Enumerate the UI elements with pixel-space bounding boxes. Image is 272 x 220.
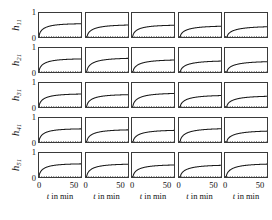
response-curve	[132, 130, 174, 142]
plot-panel-r1c3	[178, 47, 222, 73]
x-caption-units: in min	[142, 191, 166, 201]
panel-plot-area	[132, 13, 174, 37]
response-curve	[179, 26, 221, 37]
panel-plot-area	[86, 153, 128, 177]
panel-plot-area	[179, 13, 221, 37]
panel-plot-area	[132, 118, 174, 142]
plot-panel-r3c1	[85, 117, 129, 143]
plot-panel-r3c3	[178, 117, 222, 143]
plot-panel-r0c3	[178, 12, 222, 38]
panel-plot-area	[39, 118, 81, 142]
response-curve	[225, 27, 267, 37]
response-curve	[39, 24, 81, 37]
response-curve	[179, 129, 221, 142]
y-tick-1-row1: 1	[27, 43, 36, 52]
plot-panel-r3c2	[131, 117, 175, 143]
panel-plot-area	[39, 83, 81, 107]
panel-plot-area	[179, 48, 221, 72]
plot-panel-r4c3	[178, 152, 222, 178]
x-tick-0-col2: 0	[125, 181, 139, 190]
plot-panel-r4c2	[131, 152, 175, 178]
panel-plot-area	[225, 48, 267, 72]
panel-plot-area	[132, 48, 174, 72]
plot-panel-r1c1	[85, 47, 129, 73]
x-caption-units: in min	[189, 191, 213, 201]
plot-panel-r0c0	[38, 12, 82, 38]
y-tick-1-row2: 1	[27, 78, 36, 87]
panel-plot-area	[86, 83, 128, 107]
x-caption-units: in min	[96, 191, 120, 201]
panel-plot-area	[225, 153, 267, 177]
response-curve	[179, 96, 221, 107]
response-curve	[179, 61, 221, 72]
panel-plot-area	[179, 83, 221, 107]
plot-panel-r2c4	[224, 82, 268, 108]
response-curve	[86, 25, 128, 37]
response-curve	[86, 95, 128, 107]
row-label-text: h21	[11, 54, 23, 66]
x-tick-0-col3: 0	[172, 181, 186, 190]
x-tick-0-col1: 0	[79, 181, 93, 190]
step-response-matrix-figure: h11h21h31h41h510101010101050t in min050t…	[0, 0, 272, 220]
response-curve	[39, 164, 81, 177]
plot-panel-r4c1	[85, 152, 129, 178]
y-tick-1-row3: 1	[27, 113, 36, 122]
response-curve	[179, 165, 221, 177]
response-curve	[225, 131, 267, 142]
panel-plot-area	[179, 153, 221, 177]
response-curve	[39, 94, 81, 107]
plot-panel-r4c4	[224, 152, 268, 178]
plot-panel-r4c0	[38, 152, 82, 178]
response-curve	[225, 164, 267, 177]
y-tick-0-row0: 0	[27, 34, 36, 43]
panel-plot-area	[132, 83, 174, 107]
response-curve	[132, 165, 174, 177]
x-caption-units: in min	[49, 191, 73, 201]
y-tick-1-row4: 1	[27, 148, 36, 157]
response-curve	[132, 25, 174, 37]
y-tick-0-row3: 0	[27, 139, 36, 148]
panel-plot-area	[39, 153, 81, 177]
panel-plot-area	[225, 83, 267, 107]
plot-panel-r2c0	[38, 82, 82, 108]
panel-plot-area	[225, 118, 267, 142]
plot-panel-r2c3	[178, 82, 222, 108]
response-curve	[86, 58, 128, 72]
response-curve	[225, 96, 267, 107]
response-curve	[225, 62, 267, 72]
plot-panel-r1c4	[224, 47, 268, 73]
response-curve	[86, 130, 128, 142]
panel-plot-area	[86, 13, 128, 37]
response-curve	[39, 59, 81, 72]
plot-panel-r0c1	[85, 12, 129, 38]
panel-plot-area	[86, 48, 128, 72]
panel-plot-area	[225, 13, 267, 37]
plot-panel-r1c0	[38, 47, 82, 73]
response-curve	[39, 129, 81, 142]
y-tick-0-row2: 0	[27, 104, 36, 113]
plot-panel-r3c0	[38, 117, 82, 143]
plot-panel-r2c2	[131, 82, 175, 108]
y-tick-1-row0: 1	[27, 8, 36, 17]
row-label-text: h51	[11, 159, 23, 171]
panel-plot-area	[179, 118, 221, 142]
plot-panel-r0c4	[224, 12, 268, 38]
x-tick-0-col0: 0	[32, 181, 46, 190]
x-caption-units: in min	[235, 191, 259, 201]
panel-plot-area	[86, 118, 128, 142]
panel-plot-area	[39, 48, 81, 72]
row-label-text: h41	[11, 124, 23, 136]
panel-plot-area	[132, 153, 174, 177]
row-label-text: h11	[11, 19, 23, 31]
row-label-text: h31	[11, 89, 23, 101]
response-curve	[132, 60, 174, 72]
y-tick-0-row1: 0	[27, 69, 36, 78]
response-curve	[132, 93, 174, 107]
plot-panel-r1c2	[131, 47, 175, 73]
x-tick-0-col4: 0	[218, 181, 232, 190]
plot-panel-r2c1	[85, 82, 129, 108]
panel-plot-area	[39, 13, 81, 37]
plot-panel-r3c4	[224, 117, 268, 143]
x-tick-50-col4: 50	[253, 181, 267, 190]
plot-panel-r0c2	[131, 12, 175, 38]
